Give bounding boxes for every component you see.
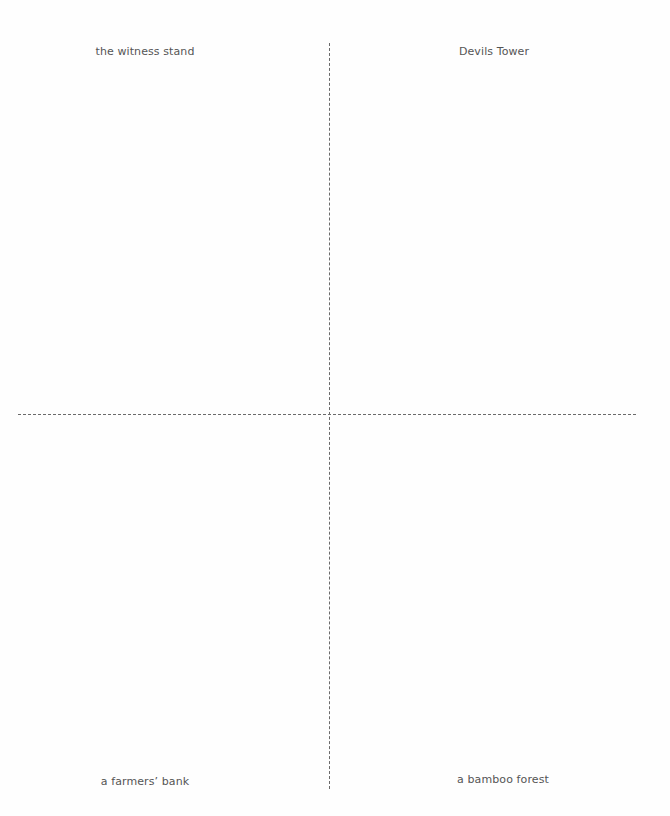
page: the witness stand Devils Tower a farmers… xyxy=(0,0,670,816)
bottom-left-label: a farmers’ bank xyxy=(0,775,295,788)
top-left-label: the witness stand xyxy=(0,45,295,58)
bottom-right-label: a bamboo forest xyxy=(353,773,653,786)
horizontal-divider xyxy=(18,414,636,415)
vertical-divider xyxy=(329,43,330,789)
top-right-label: Devils Tower xyxy=(344,45,644,58)
